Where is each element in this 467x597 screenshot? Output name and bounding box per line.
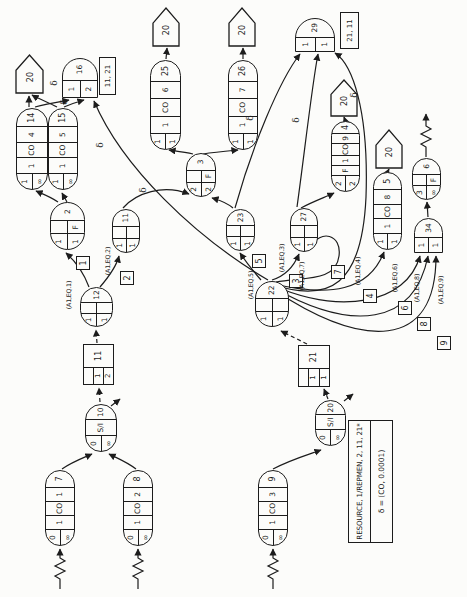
- release-requirements: 11: [256, 311, 288, 326]
- subsequent-requirement: 2: [202, 183, 216, 196]
- mid-column: F: [187, 170, 215, 182]
- node-number: 8: [124, 471, 152, 487]
- resource-row-0: [299, 369, 309, 386]
- subsequent-requirement: 1: [97, 314, 112, 326]
- node-16: 1216: [62, 58, 98, 98]
- activity-box-9: 9: [437, 336, 451, 350]
- initial-value: 1: [17, 174, 33, 189]
- output-type-cell: [127, 227, 140, 238]
- queue-25: 111CO625: [150, 60, 181, 150]
- first-requirement: 3: [413, 186, 427, 199]
- queue-4: 22F1CO94: [331, 121, 360, 192]
- output-type-cell: F: [68, 221, 84, 233]
- resource-node-number: 11: [84, 345, 113, 367]
- pill-cell-1: CO: [229, 98, 257, 115]
- pill-cell-2: 2: [124, 487, 152, 501]
- condition-label-2: (A1,EQ.5): [247, 271, 254, 299]
- edge-20s-block21: [324, 389, 328, 399]
- release-requirements: 3∞: [413, 185, 440, 199]
- initial-value: 1: [229, 134, 244, 149]
- mid-column: F: [413, 174, 440, 185]
- node-number: 15: [49, 109, 77, 126]
- empty-cell: [51, 221, 68, 233]
- subsequent-requirement: ∞: [427, 186, 440, 199]
- release-requirements: 11: [81, 313, 112, 326]
- svg-text:20: 20: [162, 25, 171, 35]
- initial-value: 0: [124, 530, 139, 545]
- delta-label-5: δ: [291, 117, 301, 122]
- node-number: 23: [227, 210, 254, 225]
- capacity-value: 1: [244, 134, 258, 149]
- arrival-arrow-7: [55, 549, 65, 589]
- edge-7-10: [62, 454, 92, 469]
- diagram-page: 2020202020 1∞1CO4141∞1CO515111CO625111CO…: [0, 0, 467, 597]
- mid-column: [291, 225, 317, 237]
- pill-cell-2: 8: [374, 189, 401, 204]
- condition-label-0: (A1,EQ.1): [65, 281, 72, 309]
- node-12: 1112: [80, 287, 113, 327]
- pill-cell-1: CO: [49, 142, 77, 158]
- sink-pentagon-20-2: 20: [229, 8, 255, 46]
- initial-value: 0: [86, 436, 102, 451]
- node-number: 14: [17, 109, 47, 126]
- mid-column: F: [51, 220, 84, 233]
- activity-box-4: 4: [363, 289, 377, 303]
- mid-column: [113, 226, 139, 238]
- activity-box-7: 7: [331, 265, 345, 279]
- initial-capacity-cell: 0∞: [259, 529, 287, 545]
- edge-27-29: [297, 54, 318, 207]
- node-number: 26: [229, 61, 257, 81]
- capacity-value: ∞: [64, 174, 78, 189]
- node-number: 29: [296, 19, 334, 37]
- pill-cell-2: 3: [259, 487, 287, 501]
- node-34: 1134: [414, 218, 443, 253]
- source-9: 0∞1CO39: [258, 470, 288, 546]
- first-requirement: 2: [187, 183, 202, 196]
- release-requirements: 11: [51, 233, 84, 249]
- empty-cell: [291, 226, 305, 237]
- capacity-value: 1: [388, 234, 401, 249]
- node-number: 9: [259, 471, 287, 487]
- initial-value: 2: [332, 176, 346, 191]
- node-number: 22: [256, 282, 288, 298]
- node-number: 12: [81, 288, 112, 302]
- condition-label-1: (A1,EQ.2): [104, 247, 111, 275]
- subsequent-requirement: 1: [273, 312, 289, 326]
- legend-resource-line: RESOURCE, 1/REPMEN, 2, 11, 21*: [349, 421, 371, 542]
- capacity-value: 1: [166, 134, 180, 149]
- resource-block-11: 1211: [83, 344, 114, 385]
- node-27: 1127: [290, 208, 318, 252]
- initial-capacity-cell: 22: [332, 175, 359, 191]
- source-7: 0∞1CO17: [45, 470, 75, 546]
- resource-row-1: 1: [94, 368, 104, 384]
- pill-cell-1: CO: [332, 143, 359, 155]
- initial-value: 0: [316, 430, 331, 445]
- node-number: 7: [46, 471, 74, 487]
- source-8: 0∞1CO28: [123, 470, 153, 546]
- resource-attributes: 11: [299, 368, 329, 386]
- output-type-cell: [273, 299, 289, 310]
- delta-label-4: δ: [245, 115, 255, 120]
- first-requirement: 1: [81, 314, 97, 326]
- svg-text:20: 20: [238, 25, 247, 35]
- capacity-value: ∞: [102, 436, 117, 451]
- initial-capacity-cell: 11: [151, 133, 180, 149]
- empty-cell: [256, 299, 273, 310]
- stub-20s: [344, 394, 353, 401]
- pill-cell-2: 9: [332, 133, 359, 143]
- resource-row-2: 2: [104, 368, 113, 384]
- pill-cell-1: CO: [151, 98, 180, 115]
- node-number: 5: [374, 173, 401, 189]
- svg-text:20: 20: [385, 147, 394, 157]
- output-type-cell: [305, 226, 318, 237]
- initial-capacity-cell: 0∞: [86, 435, 116, 451]
- edge-34-6: [427, 202, 428, 217]
- initial-capacity-cell: 1∞: [49, 173, 77, 189]
- edge-2-14: [36, 191, 58, 202]
- release-requirements: 11: [227, 236, 254, 250]
- pill-cell-2: 1: [46, 487, 74, 501]
- node-number: 6: [413, 159, 440, 174]
- mid-column: [81, 302, 112, 313]
- first-requirement: 1: [296, 38, 316, 51]
- delta-label-6: δ: [349, 92, 359, 97]
